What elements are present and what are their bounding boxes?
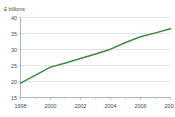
x-axis-ticks-group: 199820002002200420062008 [15, 98, 175, 109]
y-tick-label: 30 [11, 47, 17, 53]
x-tick-label: 2002 [75, 103, 87, 109]
y-tick-label: 15 [11, 95, 17, 101]
y-tick-label: 25 [11, 63, 17, 69]
line-chart-figure: £ billions 403530252015 1998200020022004… [0, 0, 174, 117]
x-tick-label: 2000 [45, 103, 57, 109]
x-tick-label: 2004 [105, 103, 117, 109]
x-tick-label: 2008 [165, 103, 175, 109]
y-tick-label: 20 [11, 79, 17, 85]
data-series-group [21, 29, 171, 83]
series-line [21, 29, 171, 83]
x-tick-label: 1998 [15, 103, 27, 109]
y-tick-label: 40 [11, 15, 17, 21]
chart-plot-area: 403530252015 199820002002200420062008 [0, 0, 174, 117]
x-tick-label: 2006 [135, 103, 147, 109]
y-tick-label: 35 [11, 31, 17, 37]
y-axis-ticks-group: 403530252015 [11, 15, 21, 101]
